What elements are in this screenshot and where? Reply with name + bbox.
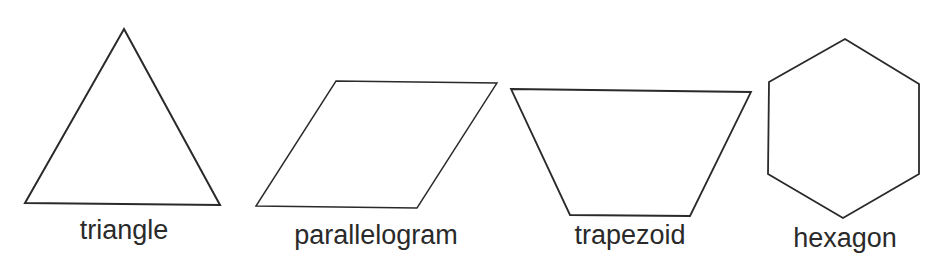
hexagon-label: hexagon — [793, 225, 897, 252]
triangle-shape — [25, 29, 220, 205]
hexagon-shape — [768, 39, 919, 218]
parallelogram-label: parallelogram — [294, 222, 458, 249]
triangle-label: triangle — [80, 217, 169, 244]
trapezoid-shape — [511, 89, 751, 216]
trapezoid-label: trapezoid — [574, 222, 685, 249]
parallelogram-shape — [256, 81, 497, 208]
